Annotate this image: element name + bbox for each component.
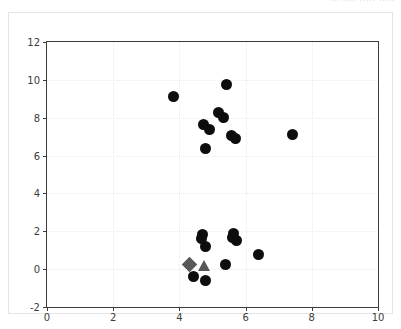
x-axis-tick-label: 10 [372, 312, 385, 323]
x-axis-tick [378, 307, 379, 311]
data-point-circle [218, 112, 229, 123]
y-axis-tick-label: 0 [34, 264, 40, 275]
data-point-circle [221, 79, 232, 90]
x-axis-tick [113, 307, 114, 311]
y-axis-tick-label: -2 [30, 302, 40, 313]
scatter-plot-axes: -20246810120246810 [46, 41, 379, 308]
x-axis-tick [312, 307, 313, 311]
data-point-circle [253, 249, 264, 260]
y-axis-tick-label: 2 [34, 226, 40, 237]
y-axis-tick-label: 8 [34, 112, 40, 123]
data-point-circle [220, 259, 231, 270]
x-axis-tick-label: 6 [242, 312, 248, 323]
data-points-layer [47, 42, 378, 307]
data-point-circle [231, 235, 242, 246]
y-axis-tick-label: 12 [27, 37, 40, 48]
data-point-triangle [198, 260, 210, 271]
figure-frame: -20246810120246810 [8, 12, 393, 314]
data-point-circle [200, 241, 211, 252]
x-axis-tick-label: 2 [110, 312, 116, 323]
x-axis-tick-label: 4 [176, 312, 182, 323]
y-axis-tick-label: 10 [27, 74, 40, 85]
data-point-circle [287, 129, 298, 140]
x-axis-tick-label: 0 [44, 312, 50, 323]
y-axis-tick-label: 4 [34, 188, 40, 199]
data-point-circle [200, 275, 211, 286]
y-axis-tick-label: 6 [34, 150, 40, 161]
data-point-circle [200, 143, 211, 154]
clipped-header-strip: ··· ···· ····· ····· [0, 0, 401, 11]
x-axis-tick [246, 307, 247, 311]
clipped-header-text: ··· ···· ····· ····· [330, 0, 395, 6]
x-axis-tick [179, 307, 180, 311]
x-axis-tick [47, 307, 48, 311]
data-point-circle [204, 124, 215, 135]
x-axis-tick-label: 8 [309, 312, 315, 323]
data-point-circle [230, 133, 241, 144]
data-point-circle [168, 91, 179, 102]
data-point-circle [188, 271, 199, 282]
